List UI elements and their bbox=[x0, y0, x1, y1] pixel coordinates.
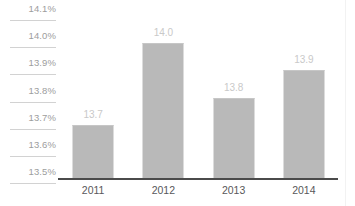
bar[interactable] bbox=[73, 125, 114, 179]
x-axis-tick-label: 2014 bbox=[292, 184, 315, 197]
y-axis-tick: 14.0% bbox=[0, 30, 58, 48]
y-axis-gridline bbox=[10, 74, 56, 75]
bar-value-label: 14.0 bbox=[154, 27, 173, 39]
y-axis-tick: 13.9% bbox=[0, 57, 58, 75]
y-axis-gridline bbox=[10, 102, 56, 103]
x-axis-tick-label: 2012 bbox=[152, 184, 175, 197]
y-axis-tick: 13.5% bbox=[0, 166, 58, 184]
y-axis: 14.1%14.0%13.9%13.8%13.7%13.6%13.5% bbox=[0, 0, 58, 206]
y-axis-tick-label: 14.1% bbox=[0, 3, 58, 14]
y-axis-tick: 14.1% bbox=[0, 3, 58, 21]
x-axis-tick-label: 2011 bbox=[82, 184, 105, 197]
bar-value-label: 13.7 bbox=[83, 109, 102, 121]
bar-chart: 14.1%14.0%13.9%13.8%13.7%13.6%13.5% 13.7… bbox=[0, 0, 355, 206]
bar-group: 14.0 bbox=[128, 0, 198, 179]
x-axis-line bbox=[58, 178, 338, 180]
y-axis-tick-label: 13.6% bbox=[0, 139, 58, 150]
bar[interactable] bbox=[143, 43, 184, 179]
y-axis-gridline bbox=[10, 183, 56, 184]
plot-area: 13.714.013.813.9 bbox=[58, 0, 339, 179]
bar-group: 13.8 bbox=[199, 0, 269, 179]
right-edge-artifact bbox=[345, 0, 346, 206]
y-axis-gridline bbox=[10, 129, 56, 130]
bar-group: 13.9 bbox=[269, 0, 339, 179]
y-axis-tick-label: 14.0% bbox=[0, 30, 58, 41]
bar[interactable] bbox=[213, 98, 254, 180]
y-axis-gridline bbox=[10, 47, 56, 48]
y-axis-tick-label: 13.7% bbox=[0, 112, 58, 123]
bar-value-label: 13.8 bbox=[224, 82, 243, 94]
bar-group: 13.7 bbox=[58, 0, 128, 179]
y-axis-tick-label: 13.5% bbox=[0, 166, 58, 177]
y-axis-tick-label: 13.8% bbox=[0, 85, 58, 96]
y-axis-tick: 13.6% bbox=[0, 139, 58, 157]
y-axis-tick: 13.8% bbox=[0, 85, 58, 103]
y-axis-tick: 13.7% bbox=[0, 112, 58, 130]
x-axis: 2011201220132014 bbox=[58, 181, 339, 203]
bar[interactable] bbox=[283, 70, 324, 179]
y-axis-gridline bbox=[10, 156, 56, 157]
bar-value-label: 13.9 bbox=[294, 54, 313, 66]
x-axis-tick-label: 2013 bbox=[222, 184, 245, 197]
y-axis-tick-label: 13.9% bbox=[0, 57, 58, 68]
y-axis-gridline bbox=[10, 20, 56, 21]
